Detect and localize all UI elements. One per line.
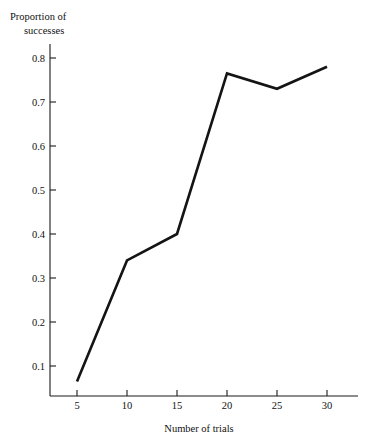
- y-axis-label-line-2: successes: [24, 25, 64, 36]
- x-tick-label-10: 10: [122, 400, 133, 411]
- y-tick-label-0.8: 0.8: [32, 53, 45, 64]
- line-chart: Proportion of successes 0.8 0.7 0.6 0.5 …: [0, 0, 369, 441]
- x-tick-label-20: 20: [222, 400, 233, 411]
- x-axis-label: Number of trials: [164, 423, 233, 434]
- x-tick-label-30: 30: [322, 400, 333, 411]
- x-tick-label-15: 15: [172, 400, 183, 411]
- y-tick-label-0.2: 0.2: [32, 317, 45, 328]
- y-axis-label-line-1: Proportion of: [10, 11, 67, 22]
- y-tick-label-0.6: 0.6: [32, 141, 45, 152]
- y-tick-label-0.1: 0.1: [32, 361, 45, 372]
- data-series-line: [77, 67, 327, 382]
- chart-figure: Proportion of successes 0.8 0.7 0.6 0.5 …: [0, 0, 369, 441]
- y-tick-label-0.4: 0.4: [32, 229, 46, 240]
- x-tick-label-25: 25: [272, 400, 283, 411]
- y-tick-label-0.7: 0.7: [32, 97, 45, 108]
- x-tick-label-5: 5: [74, 400, 79, 411]
- y-tick-label-0.5: 0.5: [32, 185, 45, 196]
- y-tick-label-0.3: 0.3: [32, 273, 45, 284]
